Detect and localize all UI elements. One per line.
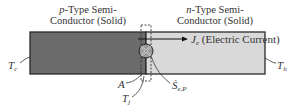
junction-temperature-label: Tj: [122, 93, 130, 108]
cold-temperature-label: Tc: [8, 60, 17, 75]
leader-area: [126, 74, 142, 83]
hot-temp-subscript: h: [283, 65, 287, 73]
area-label: A: [118, 79, 125, 90]
heat-source-label: Ṡe,P: [172, 80, 187, 95]
p-type-block: [30, 32, 146, 74]
current-label: Je (Electric Current): [191, 34, 280, 49]
leader-tj: [132, 76, 144, 97]
thermoelectric-diagram: [0, 0, 297, 110]
junction-temp-subscript: j: [128, 98, 130, 106]
current-subscript: e: [196, 39, 199, 47]
heat-generation-icon: [139, 44, 153, 58]
area-symbol: A: [118, 78, 125, 90]
heat-source-subscript: e,P: [178, 85, 187, 93]
hot-temperature-label: Th: [277, 60, 287, 75]
leader-tc: [20, 57, 30, 63]
cold-temp-subscript: c: [14, 65, 17, 73]
current-text: (Electric Current): [202, 33, 280, 45]
leader-th: [265, 58, 276, 63]
